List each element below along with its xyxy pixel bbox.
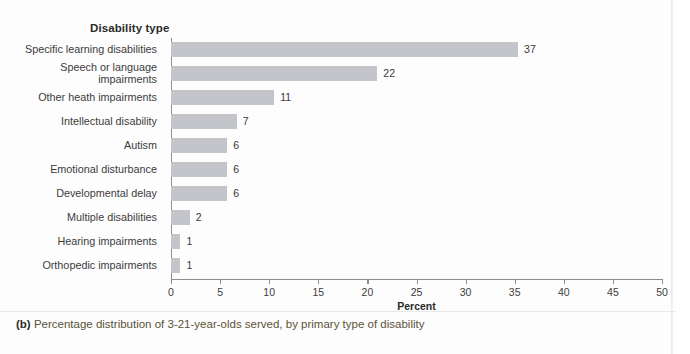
bar-value-label: 11 (280, 91, 291, 103)
x-axis-tick (564, 279, 565, 284)
bar (171, 162, 227, 177)
x-axis-tick-label: 35 (509, 286, 521, 298)
category-label: Autism (0, 139, 165, 151)
bar-value-label: 2 (196, 211, 202, 223)
bar-chart: Disability type Specific learning disabi… (0, 0, 690, 300)
bar-value-label: 6 (233, 139, 239, 151)
x-axis-tick (367, 279, 368, 284)
x-axis-tick-label: 0 (168, 286, 174, 298)
category-label: Developmental delay (0, 187, 165, 199)
x-axis-tick-label: 20 (362, 286, 374, 298)
x-axis-tick (515, 279, 516, 284)
bar (171, 210, 190, 225)
x-axis-tick (613, 279, 614, 284)
x-axis-tick (466, 279, 467, 284)
x-axis-tick (318, 279, 319, 284)
bar (171, 186, 227, 201)
x-axis-tick (269, 279, 270, 284)
bar-value-label: 22 (383, 67, 395, 79)
bar (171, 114, 237, 129)
bar-value-label: 6 (233, 163, 239, 175)
category-label: Orthopedic impairments (0, 259, 165, 271)
figure-caption: (b) Percentage distribution of 3-21-year… (16, 318, 424, 330)
caption-prefix: (b) (16, 318, 31, 330)
bar (171, 66, 377, 81)
category-label: Specific learning disabilities (0, 43, 165, 55)
x-axis-tick-label: 15 (312, 286, 324, 298)
bar (171, 42, 518, 57)
x-axis-tick-label: 40 (558, 286, 570, 298)
bar-value-label: 1 (186, 235, 192, 247)
x-axis-tick-label: 25 (411, 286, 423, 298)
category-label: Hearing impairments (0, 235, 165, 247)
category-label: Speech or language impairments (0, 61, 165, 85)
caption-text: Percentage distribution of 3-21-year-old… (34, 318, 425, 330)
x-axis-tick-label: 10 (263, 286, 275, 298)
x-axis-tick-label: 45 (607, 286, 619, 298)
category-label: Other heath impairments (0, 91, 165, 103)
x-axis-tick-label: 5 (217, 286, 223, 298)
bar-value-label: 1 (186, 259, 192, 271)
category-label: Emotional disturbance (0, 163, 165, 175)
caption-divider (0, 311, 676, 312)
x-axis-tick-label: 50 (656, 286, 668, 298)
bar (171, 234, 180, 249)
category-label: Intellectual disability (0, 115, 165, 127)
chart-column-header: Disability type (90, 22, 169, 34)
bar (171, 258, 180, 273)
x-axis-tick (417, 279, 418, 284)
bar (171, 90, 274, 105)
x-axis-tick (220, 279, 221, 284)
bar-value-label: 7 (243, 115, 249, 127)
x-axis-tick (171, 279, 172, 284)
category-label-group: Specific learning disabilitiesSpeech or … (0, 38, 165, 280)
bar (171, 138, 227, 153)
bar-value-label: 6 (233, 187, 239, 199)
x-axis-tick (662, 279, 663, 284)
bar-value-label: 37 (524, 43, 536, 55)
page-sheet: Disability type Specific learning disabi… (0, 0, 690, 354)
category-label: Multiple disabilities (0, 211, 165, 223)
x-axis-tick-label: 30 (460, 286, 472, 298)
